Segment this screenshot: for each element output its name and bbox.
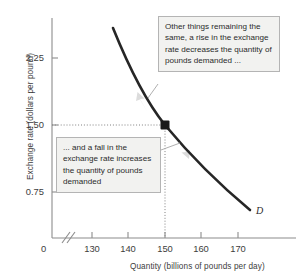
y-tick-label-0-75: 0.75 — [10, 186, 44, 197]
x-tick-label-150: 150 — [148, 243, 182, 254]
rise-callout-leader-line — [148, 84, 158, 98]
axis-break-icon — [62, 232, 76, 243]
fall-callout: ... and a fall in the exchange rate incr… — [56, 137, 161, 193]
demand-curve-label: D — [256, 205, 263, 216]
y-tick-label-1-50: 1.50 — [10, 119, 44, 130]
x-tick-label-170: 170 — [221, 243, 255, 254]
x-tick-label-140: 140 — [111, 243, 145, 254]
exchange-rate-demand-figure: Exchange rate (dollars per pound) Quanti… — [0, 0, 301, 280]
y-tick-label-2-25: 2.25 — [10, 52, 44, 63]
x-axis-title: Quantity (billions of pounds per day) — [130, 262, 265, 271]
fall-callout-leader-line — [161, 143, 180, 150]
rise-callout: Other things remaining the same, a rise … — [158, 16, 280, 72]
x-tick-label-160: 160 — [184, 243, 218, 254]
origin-label: 0 — [41, 243, 46, 254]
equilibrium-point-marker — [161, 121, 170, 130]
x-tick-label-130: 130 — [75, 243, 109, 254]
